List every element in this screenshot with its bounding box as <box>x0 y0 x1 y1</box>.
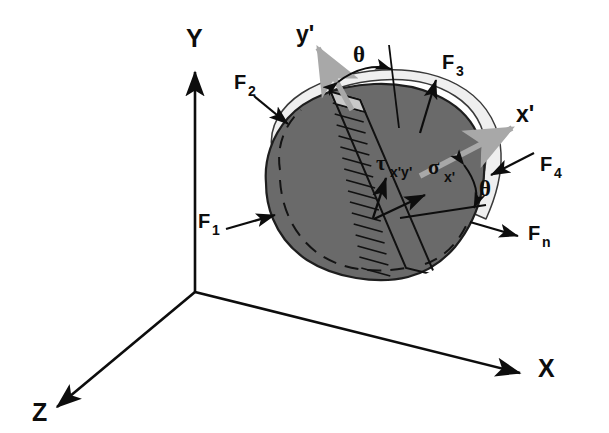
force-1-arrow <box>226 215 275 229</box>
theta-upper-label: θ <box>353 42 365 67</box>
normal-stress-subscript: x' <box>444 169 455 185</box>
force-4-label: F <box>540 153 552 175</box>
shear-stress-subscript: x'y' <box>390 164 412 180</box>
figure-canvas: y' x' θ θ τ x'y' σ x' <box>0 0 609 433</box>
normal-stress-symbol: σ <box>428 155 440 179</box>
z-axis-line <box>57 292 195 407</box>
force-1-label: F <box>198 210 210 232</box>
force-n-subscript: n <box>542 234 551 250</box>
force-4-subscript: 4 <box>554 165 562 181</box>
force-3-subscript: 3 <box>456 63 464 79</box>
force-2-subscript: 2 <box>248 83 256 99</box>
y-axis-label: Y <box>186 24 203 52</box>
force-3-label: F <box>442 51 454 73</box>
x-axis-line <box>195 292 520 373</box>
x-prime-label: x' <box>516 101 534 127</box>
force-2-label: F <box>234 71 246 93</box>
force-1-subscript: 1 <box>212 222 220 238</box>
theta-lower-label: θ <box>479 176 491 201</box>
x-axis-label: X <box>538 354 555 382</box>
force-n-label: F <box>528 222 540 244</box>
y-prime-label: y' <box>296 21 314 47</box>
shear-stress-symbol: τ <box>376 151 386 175</box>
stress-transformation-diagram: y' x' θ θ τ x'y' σ x' <box>0 0 609 433</box>
force-n-arrow <box>470 222 518 236</box>
z-axis-label: Z <box>32 398 47 426</box>
